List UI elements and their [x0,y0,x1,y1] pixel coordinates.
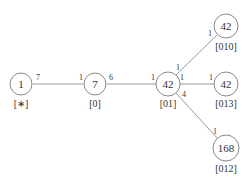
node-n3: 42 [01] [156,72,180,109]
node-n6: 168 [012] [213,135,239,174]
node-n2: 7 [0] [84,73,106,109]
node-n1: 1 [∗] [10,73,32,109]
svg-text:168: 168 [218,142,235,154]
edge-weight: 7 [36,73,40,82]
edge-weight: 1 [208,29,212,38]
tree-diagram: 7 1 6 1 1 1 1 1 4 1 1 [∗] 7 [0] 42 [01] … [0,0,248,178]
svg-text:42: 42 [221,20,232,32]
svg-text:[0]: [0] [89,98,101,109]
svg-text:42: 42 [163,78,174,90]
edge-weight: 1 [180,73,184,82]
edge-n3-n4 [176,34,218,75]
svg-text:[01]: [01] [160,98,177,109]
svg-text:[013]: [013] [215,98,237,109]
svg-text:[010]: [010] [215,41,237,52]
svg-text:[012]: [012] [215,163,237,174]
svg-text:7: 7 [92,78,98,90]
edge-weight: 6 [109,73,113,82]
edge-weight: 1 [176,63,180,72]
edge-weight: 1 [151,73,155,82]
node-n4: 42 [010] [214,14,238,52]
edge-n3-n6 [176,93,218,139]
svg-text:[∗]: [∗] [14,98,29,109]
edge-weight: 1 [213,127,217,136]
node-n5: 42 [013] [214,72,238,109]
svg-text:1: 1 [18,78,24,90]
edge-weight: 1 [209,73,213,82]
edge-weight: 4 [182,90,186,99]
svg-text:42: 42 [221,78,232,90]
edge-weight: 1 [79,73,83,82]
